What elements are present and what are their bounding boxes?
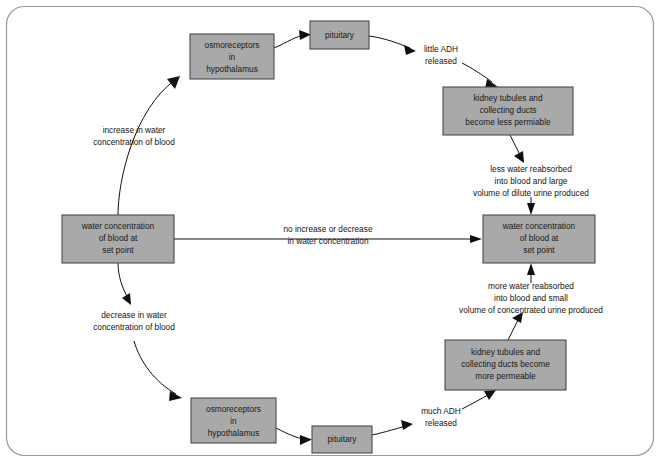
node-label-line: in	[230, 416, 237, 426]
node-kidney-less-permeable: kidney tubules and collecting ducts beco…	[443, 87, 573, 135]
edge-label-line: concentration of blood	[93, 322, 175, 332]
edge-label-line: no increase or decrease	[283, 224, 372, 234]
node-label-line: osmoreceptors	[205, 40, 260, 50]
edge-label-line: much ADH	[421, 406, 461, 416]
edge-label-line: released	[425, 418, 457, 428]
edge-label-line: in water concentration	[287, 236, 369, 246]
node-water-setpoint-right: water concentration of blood at set poin…	[483, 215, 595, 263]
node-label-line: collecting ducts	[480, 105, 537, 115]
node-label-line: water concentration	[502, 221, 576, 231]
node-water-setpoint-left: water concentration of blood at set poin…	[62, 215, 174, 263]
edge-label-line: released	[425, 56, 457, 66]
node-label-line: osmoreceptors	[206, 404, 261, 414]
node-label-line: set point	[523, 245, 555, 255]
edge-label-line: into blood and small	[494, 293, 568, 303]
edge-label-line: increase in water	[103, 125, 166, 135]
node-label-line: of blood at	[520, 233, 559, 243]
node-label-line: kidney tubules and	[471, 347, 541, 357]
node-label-line: more permeable	[475, 371, 536, 381]
edge-label-line: little ADH	[424, 44, 458, 54]
edge-label-line: volume of concentrated urine produced	[459, 305, 603, 315]
edge-label-line: concentration of blood	[93, 137, 175, 147]
node-label-line: of blood at	[99, 233, 138, 243]
node-label-line: collecting ducts become	[461, 359, 550, 369]
node-pituitary-top: pituitary	[310, 21, 369, 49]
edge-label-line: into blood and large	[495, 176, 568, 186]
edge-label-line: decrease in water	[101, 310, 167, 320]
osmoregulation-feedback-diagram: osmoreceptors in hypothalamus pituitary …	[0, 0, 668, 469]
edge-label-line: more water reabsorbed	[488, 281, 574, 291]
node-label-line: kidney tubules and	[473, 93, 543, 103]
node-kidney-more-permeable: kidney tubules and collecting ducts beco…	[445, 340, 566, 390]
node-label-line: hypothalamus	[206, 64, 258, 74]
node-label-line: set point	[102, 245, 134, 255]
node-label-line: water concentration	[81, 221, 155, 231]
node-label-line: become less permiable	[465, 117, 551, 127]
node-label-line: hypothalamus	[208, 428, 260, 438]
edge-label-line: less water reabsorbed	[490, 164, 572, 174]
node-label-line: in	[229, 52, 236, 62]
node-pituitary-bottom: pituitary	[312, 426, 372, 453]
node-label-line: pituitary	[327, 434, 357, 444]
node-label-line: pituitary	[325, 30, 355, 40]
node-osmoreceptors-bottom: osmoreceptors in hypothalamus	[191, 398, 276, 443]
node-osmoreceptors-top: osmoreceptors in hypothalamus	[190, 34, 274, 79]
diagram-canvas: osmoreceptors in hypothalamus pituitary …	[0, 0, 668, 469]
edge-label-line: volume of dilute urine produced	[473, 188, 589, 198]
